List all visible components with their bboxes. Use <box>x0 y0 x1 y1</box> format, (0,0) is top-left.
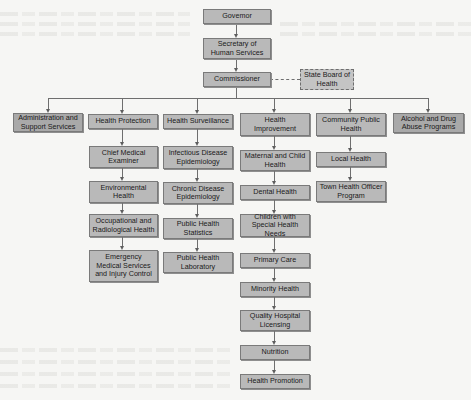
connector <box>122 237 123 246</box>
node-label: Health Promotion <box>247 377 303 385</box>
connector <box>197 129 198 142</box>
node-label: Public Health Laboratory <box>166 254 230 271</box>
bleed-through-text <box>280 32 471 36</box>
connector <box>122 168 123 177</box>
node-secretary: Secretary of Human Services <box>203 38 271 59</box>
connector <box>274 98 275 109</box>
node-public-health-laboratory: Public Health Laboratory <box>163 252 233 273</box>
connector <box>274 171 275 181</box>
bleed-through-text <box>280 22 471 26</box>
connector <box>350 167 351 177</box>
connector <box>48 98 49 109</box>
node-state-board-of-health: State Board of Health <box>300 69 354 90</box>
node-label: Quality Hospital Licensing <box>243 312 307 329</box>
node-health-promotion: Health Promotion <box>240 374 310 389</box>
node-label: Primary Care <box>254 256 296 264</box>
node-label: Chief Medical Examiner <box>92 149 155 166</box>
node-infectious-disease: Infectious Disease Epidemiology <box>163 146 233 169</box>
bleed-through-text <box>0 360 230 364</box>
connector <box>274 237 275 249</box>
node-chronic-disease: Chronic Disease Epidemiology <box>163 182 233 204</box>
node-health-protection: Health Protection <box>88 114 158 129</box>
connector <box>197 98 198 110</box>
connector <box>236 86 237 98</box>
connector <box>274 136 275 146</box>
connector <box>428 98 429 109</box>
node-primary-care: Primary Care <box>240 253 310 268</box>
connector <box>350 98 351 109</box>
connector <box>197 169 198 178</box>
node-label: Community Public Health <box>319 116 383 133</box>
node-occupational-radiological: Occupational and Radiological Health <box>89 214 158 237</box>
node-nutrition: Nutrition <box>240 345 310 360</box>
node-label: State Board of Health <box>303 71 351 88</box>
node-governor: Govemor <box>203 9 271 24</box>
connector <box>197 204 198 214</box>
bleed-through-text <box>0 348 230 352</box>
bleed-through-text <box>0 32 190 36</box>
node-label: Maternal and Child Health <box>243 152 307 169</box>
connector <box>236 23 237 34</box>
node-label: Dental Health <box>253 188 297 196</box>
node-label: Nutrition <box>262 348 289 356</box>
node-dental-health: Dental Health <box>240 185 310 200</box>
node-local-health: Local Health <box>316 152 386 167</box>
node-maternal-child-health: Maternal and Child Health <box>240 150 310 171</box>
connector <box>274 331 275 341</box>
connector <box>236 58 237 68</box>
node-commissioner: Commissioner <box>203 72 271 87</box>
node-quality-hospital-licensing: Quality Hospital Licensing <box>240 310 310 331</box>
dashed-connector <box>270 79 300 80</box>
node-label: Minority Health <box>251 285 299 293</box>
node-alcohol-drug-abuse: Alcohol and Drug Abuse Programs <box>393 113 464 133</box>
node-label: Occupational and Radiological Health <box>92 217 155 234</box>
node-label: Health Protection <box>95 117 150 125</box>
connector <box>122 129 123 142</box>
node-public-health-statistics: Public Health Statistics <box>163 218 233 239</box>
node-community-public-health: Community Public Health <box>316 113 386 136</box>
node-label: Public Health Statistics <box>166 220 230 237</box>
node-administration: Administration and Support Services <box>13 113 83 132</box>
node-chief-medical-examiner: Chief Medical Examiner <box>89 146 158 168</box>
bleed-through-text <box>0 12 190 16</box>
node-label: Chronic Disease Epidemiology <box>166 185 230 202</box>
connector <box>274 200 275 210</box>
connector <box>274 360 275 370</box>
connector <box>274 268 275 278</box>
connector <box>197 239 198 248</box>
node-environmental-health: Environmental Health <box>89 181 158 203</box>
connector <box>122 98 123 110</box>
node-label: Commissioner <box>214 75 260 83</box>
node-label: Emergency Medical Services and Injury Co… <box>92 253 155 278</box>
node-label: Govemor <box>222 12 252 20</box>
connector <box>274 297 275 306</box>
node-label: Infectious Disease Epidemiology <box>166 149 230 166</box>
node-label: Town Health Officer Program <box>319 183 383 200</box>
node-label: Children with Special Health Needs <box>243 213 307 238</box>
node-town-health-officer: Town Health Officer Program <box>316 181 386 202</box>
node-label: Environmental Health <box>92 184 155 201</box>
bleed-through-text <box>0 384 230 388</box>
connector <box>350 136 351 148</box>
node-emergency-medical-services: Emergency Medical Services and Injury Co… <box>89 250 158 282</box>
bleed-through-text <box>0 372 230 376</box>
node-label: Health Surveillance <box>167 117 229 125</box>
node-health-improvement: Health Improvement <box>240 113 310 136</box>
node-health-surveillance: Health Surveillance <box>163 114 233 129</box>
node-label: Health Improvement <box>243 116 307 133</box>
node-label: Administration and Support Services <box>16 114 80 131</box>
node-children-special-needs: Children with Special Health Needs <box>240 214 310 237</box>
node-label: Alcohol and Drug Abuse Programs <box>396 115 461 132</box>
bleed-through-text <box>0 22 190 26</box>
node-label: Local Health <box>331 155 371 163</box>
division-bus-line <box>48 98 429 99</box>
node-minority-health: Minority Health <box>240 282 310 297</box>
node-label: Secretary of Human Services <box>206 40 268 57</box>
